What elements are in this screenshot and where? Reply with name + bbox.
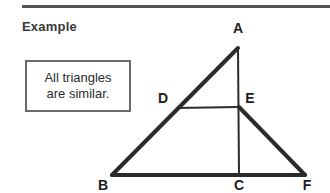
vertex-label-a: A [233,20,243,36]
vertex-label-f: F [303,177,312,193]
segment-ab [112,48,238,175]
vertex-label-d: D [158,90,168,106]
segment-ac [238,48,239,175]
triangle-diagram: A B C D E F [0,0,330,193]
vertex-label-e: E [245,90,254,106]
segment-de [176,107,239,108]
segment-ef [239,107,305,175]
vertex-label-c: C [234,177,244,193]
diagram-segments [112,48,305,175]
vertex-label-b: B [98,177,108,193]
diagram-vertex-labels: A B C D E F [98,20,312,193]
example-figure-page: Example All triangles are similar. A B C… [0,0,330,193]
